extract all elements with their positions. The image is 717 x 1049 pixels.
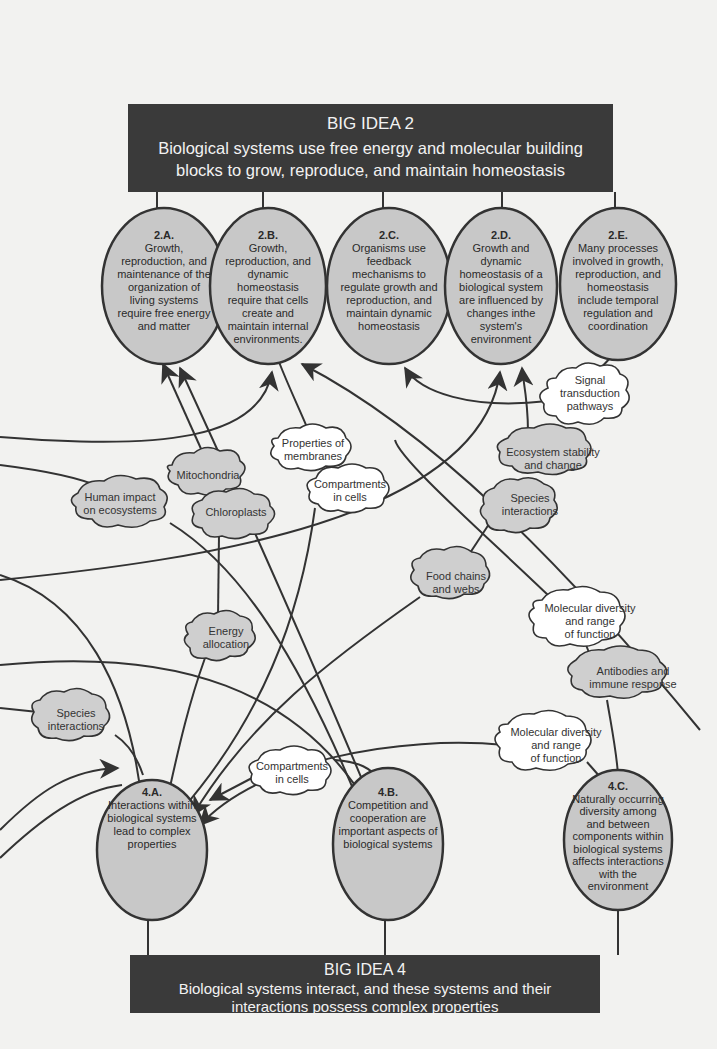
cloud-line: transduction [545, 387, 635, 400]
ellipse-4a-line: biological systems [97, 812, 207, 825]
ellipse-4c-line: Naturally occurring [562, 793, 674, 806]
ellipse-2e-line: include temporal [560, 294, 676, 307]
ellipse-2b-line: homeostasis [210, 281, 326, 294]
ellipse-2a-text: 2.A. Growth, reproduction, and maintenan… [104, 229, 224, 333]
cloud-line: allocation [186, 638, 266, 651]
cloud-line: Chloroplasts [196, 506, 276, 519]
ellipse-2d-line: biological system [445, 281, 557, 294]
ellipse-2b-line: dynamic [210, 268, 326, 281]
big-idea-2-line1: Biological systems use free energy and m… [128, 137, 613, 159]
cloud-line: interactions [490, 505, 570, 518]
ellipse-2a-line: organization of [104, 281, 224, 294]
cloud-ecosystem-stability-text: Ecosystem stability and change [500, 446, 606, 472]
cloud-human-impact-text: Human impact on ecosystems [70, 491, 170, 517]
ellipse-4a-line: lead to complex [97, 825, 207, 838]
cloud-antibodies-text: Antibodies and immune response [578, 665, 688, 691]
ellipse-4c-line: affects interactions [562, 855, 674, 868]
cloud-line: Species [36, 707, 116, 720]
cloud-line: of function [504, 752, 608, 765]
ellipse-4b-line: biological systems [331, 838, 445, 851]
ellipse-4c-line: diversity among [562, 805, 674, 818]
cloud-mitochondria-text: Mitochondria [166, 469, 250, 482]
big-idea-2-title: BIG IDEA 2 [128, 114, 613, 134]
ellipse-2a-id: 2.A. [104, 229, 224, 242]
cloud-line: and range [538, 615, 642, 628]
ellipse-2d-line: system's [445, 320, 557, 333]
cloud-line: Properties of [270, 437, 356, 450]
ellipse-2a-line: Growth, [104, 242, 224, 255]
cloud-signal-transduction-text: Signal transduction pathways [545, 374, 635, 413]
big-idea-4-banner: BIG IDEA 4 Biological systems interact, … [130, 955, 600, 1013]
ellipse-4c-line: biological systems [562, 843, 674, 856]
cloud-line: Human impact [70, 491, 170, 504]
cloud-line: Signal [545, 374, 635, 387]
ellipse-2b-text: 2.B. Growth, reproduction, and dynamic h… [210, 229, 326, 346]
ellipse-2c-line: reproduction, and [327, 294, 451, 307]
ellipse-4b-line: cooperation are [331, 812, 445, 825]
ellipse-4b-line: Competition and [331, 799, 445, 812]
ellipse-2d-line: changes inthe [445, 307, 557, 320]
cloud-line: membranes [270, 450, 356, 463]
ellipse-4c-text: 4.C. Naturally occurring diversity among… [562, 780, 674, 893]
cloud-line: Antibodies and [578, 665, 688, 678]
cloud-energy-allocation-text: Energy allocation [186, 625, 266, 651]
cloud-line: Species [490, 492, 570, 505]
ellipse-2d-line: are influenced by [445, 294, 557, 307]
ellipse-2a-line: require free energy [104, 307, 224, 320]
big-idea-2-line2: blocks to grow, reproduce, and maintain … [128, 159, 613, 181]
cloud-line: and range [504, 739, 608, 752]
ellipse-2c-line: regulate growth and [327, 281, 451, 294]
ellipse-2a-line: maintenance of the [104, 268, 224, 281]
ellipse-2a-line: living systems [104, 294, 224, 307]
ellipse-2d-line: environment [445, 333, 557, 346]
ellipse-2b-line: require that cells [210, 294, 326, 307]
cloud-line: Compartments [308, 478, 392, 491]
big-idea-4-title: BIG IDEA 4 [130, 961, 600, 979]
cloud-species-interactions-right-text: Species interactions [490, 492, 570, 518]
ellipse-2a-line: reproduction, and [104, 255, 224, 268]
big-idea-4-line2: interactions possess complex properties [130, 998, 600, 1016]
ellipse-2c-line: feedback [327, 255, 451, 268]
ellipse-4b-line: important aspects of [331, 825, 445, 838]
ellipse-2c-line: homeostasis [327, 320, 451, 333]
ellipse-2e-line: coordination [560, 320, 676, 333]
cloud-line: Food chains [414, 570, 498, 583]
ellipse-4a-line: Interactions within [97, 799, 207, 812]
ellipse-4c-line: with the [562, 868, 674, 881]
ellipse-2e-line: involved in growth, [560, 255, 676, 268]
cloud-compartments-lower-text: Compartments in cells [250, 760, 334, 786]
cloud-chloroplasts-text: Chloroplasts [196, 506, 276, 519]
cloud-line: and webs [414, 583, 498, 596]
cloud-line: Mitochondria [166, 469, 250, 482]
ellipse-4a-id: 4.A. [97, 786, 207, 799]
ellipse-2e-text: 2.E. Many processes involved in growth, … [560, 229, 676, 333]
ellipse-2d-id: 2.D. [445, 229, 557, 242]
ellipse-2c-line: maintain dynamic [327, 307, 451, 320]
ellipse-2e-line: Many processes [560, 242, 676, 255]
ellipse-2c-line: Organisms use [327, 242, 451, 255]
ellipse-2c-id: 2.C. [327, 229, 451, 242]
ellipse-2c-line: mechanisms to [327, 268, 451, 281]
ellipse-4c-line: components within [562, 830, 674, 843]
cloud-line: Compartments [250, 760, 334, 773]
big-idea-4-line1: Biological systems interact, and these s… [130, 980, 600, 998]
ellipse-4b-text: 4.B. Competition and cooperation are imp… [331, 786, 445, 851]
ellipse-4a-text: 4.A. Interactions within biological syst… [97, 786, 207, 851]
cloud-molecular-diversity-upper-text: Molecular diversity and range of functio… [538, 602, 642, 641]
ellipse-2b-line: reproduction, and [210, 255, 326, 268]
cloud-line: Energy [186, 625, 266, 638]
ellipse-2b-line: environments. [210, 333, 326, 346]
ellipse-2a-line: and matter [104, 320, 224, 333]
cloud-line: immune response [578, 678, 688, 691]
ellipse-2c-text: 2.C. Organisms use feedback mechanisms t… [327, 229, 451, 333]
ellipse-2b-line: Growth, [210, 242, 326, 255]
cloud-line: on ecosystems [70, 504, 170, 517]
cloud-line: Molecular diversity [504, 726, 608, 739]
ellipse-2d-line: dynamic [445, 255, 557, 268]
ellipse-4a-line: properties [97, 838, 207, 851]
cloud-species-interactions-left-text: Species interactions [36, 707, 116, 733]
ellipse-4c-line: and between [562, 818, 674, 831]
ellipse-2d-text: 2.D. Growth and dynamic homeostasis of a… [445, 229, 557, 346]
cloud-line: and change [500, 459, 606, 472]
ellipse-2d-line: Growth and [445, 242, 557, 255]
